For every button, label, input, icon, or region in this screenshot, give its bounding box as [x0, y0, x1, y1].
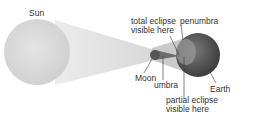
- sun-icon: [4, 19, 70, 85]
- sun-label: Sun: [29, 9, 44, 18]
- total-eclipse-label-line2: visible here: [131, 26, 174, 35]
- earth-label: Earth: [210, 85, 230, 94]
- partial-eclipse-label-line2: visible here: [166, 105, 209, 114]
- eclipse-diagram: Sun total eclipse visible here penumbra …: [0, 0, 262, 116]
- umbra-label: umbra: [154, 81, 178, 90]
- moon-icon: [150, 50, 160, 60]
- penumbra-label: penumbra: [180, 17, 218, 26]
